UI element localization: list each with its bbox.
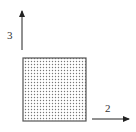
square-with-axes-diagram [0, 0, 136, 132]
axis-3-label: 3 [7, 30, 13, 41]
axis-2-label: 2 [105, 103, 111, 114]
dotted-square [23, 58, 86, 121]
